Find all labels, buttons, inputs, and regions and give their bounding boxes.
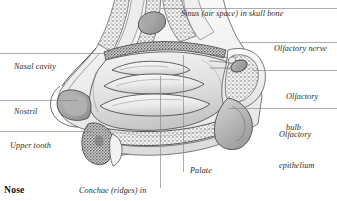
figure-caption: Nose (4, 184, 25, 195)
label-palate: Palate (190, 166, 212, 176)
label-olfactory-epithelium-line1: Olfactory (279, 130, 315, 140)
label-sinus: Sinus (air space) in skull bone (181, 9, 283, 19)
label-olfactory-epithelium: Olfactory epithelium (279, 110, 315, 192)
label-nostril: Nostril (14, 107, 37, 117)
nose-anatomy-figure: Sinus (air space) in skull bone Olfactor… (0, 0, 337, 201)
label-conchae-line1: Conchae (ridges) in (79, 186, 146, 196)
label-nasal-cavity: Nasal cavity (14, 62, 56, 72)
label-upper-tooth: Upper tooth (10, 141, 51, 151)
label-olfactory-nerve: Olfactory nerve (274, 44, 327, 54)
label-olfactory-epithelium-line2: epithelium (279, 161, 315, 171)
label-olfactory-bulb-line1: Olfactory (286, 92, 318, 102)
label-conchae: Conchae (ridges) in wall of nasal cavity (79, 166, 146, 201)
